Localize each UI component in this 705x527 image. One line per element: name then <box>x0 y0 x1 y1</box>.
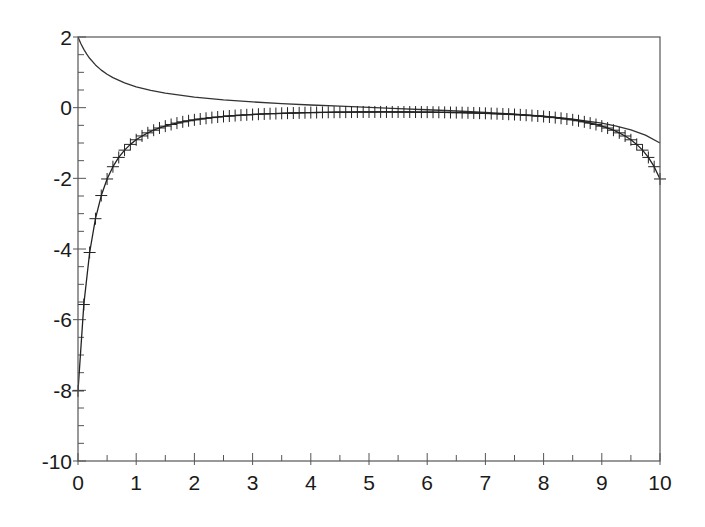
x-tick-label: 4 <box>305 471 317 494</box>
y-tick-label: -4 <box>53 238 72 261</box>
x-tick-label: 2 <box>189 471 201 494</box>
y-tick-label: -8 <box>53 379 72 402</box>
y-tick-label: 2 <box>60 26 72 49</box>
x-tick-label: 8 <box>538 471 550 494</box>
x-tick-label: 10 <box>648 471 671 494</box>
y-tick-label: -2 <box>53 167 72 190</box>
chart-background <box>0 0 705 527</box>
x-tick-label: 3 <box>247 471 259 494</box>
x-tick-label: 0 <box>72 471 84 494</box>
y-tick-label: -6 <box>53 308 72 331</box>
x-tick-label: 1 <box>130 471 142 494</box>
line-chart: 012345678910 -10-8-6-4-202 <box>0 0 705 527</box>
x-tick-label: 7 <box>480 471 492 494</box>
x-tick-label: 9 <box>596 471 608 494</box>
x-tick-label: 5 <box>363 471 375 494</box>
x-tick-label: 6 <box>421 471 433 494</box>
y-tick-label: -10 <box>42 450 72 473</box>
y-tick-label: 0 <box>60 96 72 119</box>
